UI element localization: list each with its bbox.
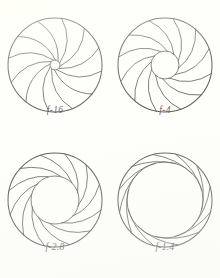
aperture-label-f16: f-16	[0, 105, 110, 115]
aperture-blade-edge	[121, 56, 154, 81]
aperture-blade-edge	[62, 210, 101, 223]
aperture-blade-edge	[37, 21, 58, 61]
aperture-drawing-f28	[0, 135, 110, 253]
aperture-blade-edge	[60, 28, 84, 66]
aperture-figure-grid: f-16 f-4 f-2.8 f-1.4	[0, 0, 220, 278]
aperture-diagram-f16: f-16	[0, 0, 110, 139]
aperture-drawing-f14	[110, 135, 220, 253]
aperture-label-f28: f-2.8	[0, 242, 110, 252]
aperture-drawing-f4	[110, 0, 220, 118]
barrel-ring	[118, 18, 212, 112]
aperture-diagram-f4: f-4	[110, 0, 220, 139]
aperture-blade-edge	[49, 223, 89, 232]
aperture-label-f14: f-1.4	[110, 242, 220, 252]
aperture-blade-edge	[11, 61, 51, 82]
aperture-blade-edge	[149, 21, 174, 55]
aperture-blade-edge	[32, 207, 45, 247]
aperture-blade-edge	[55, 70, 93, 94]
aperture-opening	[31, 176, 79, 224]
aperture-blade-edge	[20, 167, 61, 176]
aperture-opening	[151, 51, 179, 79]
aperture-blade-edge	[26, 64, 50, 102]
aperture-opening	[127, 162, 203, 238]
aperture-diagram-f14: f-1.4	[110, 135, 220, 274]
aperture-drawing-f16	[0, 0, 110, 118]
aperture-diagram-f28: f-2.8	[0, 135, 110, 274]
aperture-blade-edge	[119, 48, 160, 56]
barrel-ring	[8, 18, 102, 112]
aperture-blade-edge	[22, 194, 31, 235]
barrel-ring	[8, 153, 102, 247]
aperture-blade-edge	[152, 154, 192, 173]
aperture-blade-edge	[56, 70, 101, 78]
aperture-blade-edge	[60, 18, 68, 63]
aperture-blade-edge	[18, 36, 56, 60]
aperture-blade-edge	[9, 53, 54, 61]
aperture-label-f4: f-4	[110, 105, 220, 115]
aperture-blade-edge	[51, 69, 72, 109]
aperture-opening	[50, 60, 60, 70]
